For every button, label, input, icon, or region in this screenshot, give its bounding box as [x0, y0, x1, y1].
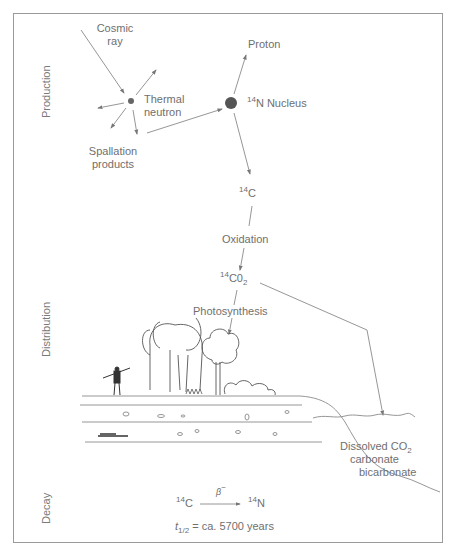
thermal-neutron-dot [128, 98, 134, 104]
co2-label: 14C02 [220, 272, 247, 285]
n14-nucleus-label: 14N Nucleus [247, 97, 307, 110]
c14-label: 14C [239, 187, 256, 200]
bushes [224, 381, 275, 395]
c14-arrow [234, 113, 250, 174]
proton-arrow [234, 55, 246, 94]
section-decay: Decay [40, 493, 52, 524]
cosmic-ray-label: Cosmicray [93, 22, 137, 48]
oxidation-label: Oxidation [222, 233, 268, 246]
proton-label: Proton [248, 38, 280, 51]
decay-to-n14: 14N [248, 497, 265, 510]
co2-to-ocean-arrow [260, 283, 383, 415]
thermal-neutron-label: Thermalneutron [144, 93, 184, 119]
beta-label: β− [216, 486, 226, 499]
decay-from-c14: 14C [176, 497, 193, 510]
photosynthesis-label: Photosynthesis [193, 305, 268, 318]
mammoth-figure [143, 318, 203, 392]
half-life-label: t1/2 = ca. 5700 years [175, 520, 274, 533]
hunter-figure [103, 367, 130, 395]
section-distribution: Distribution [40, 302, 52, 357]
spallation-products-label: Spallationproducts [88, 145, 138, 171]
buried-skeleton [98, 434, 128, 436]
dissolved-co2-label: Dissolved CO2 carbonate bicarbonate [340, 440, 450, 479]
n14-nucleus-dot [225, 97, 237, 109]
tree-figure [202, 329, 239, 395]
section-production: Production [40, 65, 52, 118]
